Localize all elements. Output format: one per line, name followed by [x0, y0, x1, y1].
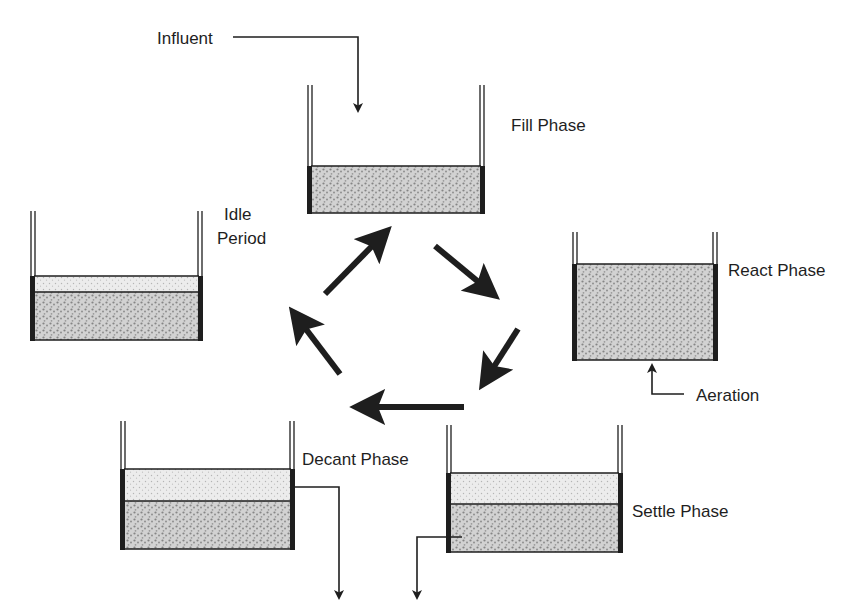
fill-phase-label: Fill Phase [511, 116, 586, 135]
tank-wall-left [446, 473, 451, 553]
clear-layer [450, 473, 619, 504]
settle-phase-label: Settle Phase [632, 502, 728, 521]
idle-label-line1: Idle [224, 205, 251, 224]
clear-layer [34, 276, 199, 292]
tank-decant [120, 421, 339, 597]
tank-fill [307, 85, 485, 214]
tank-wall-right [713, 264, 718, 361]
sludge-layer [34, 292, 199, 340]
tank-wall-left [120, 469, 125, 550]
sbr-cycle-diagram: Influent Fill Phase React Phase Aeration [0, 0, 868, 613]
tank-settle [417, 425, 623, 597]
aeration-arrow-icon [652, 366, 684, 394]
tank-wall-right [290, 469, 295, 550]
arrow-fill-to-react-icon [435, 246, 487, 289]
aeration-label: Aeration [696, 386, 759, 405]
sludge-layer [450, 504, 619, 552]
aeration-group: Aeration [652, 366, 759, 405]
influent-label: Influent [157, 29, 213, 48]
tank-wall-left [307, 166, 312, 214]
influent-group: Influent [157, 29, 358, 110]
influent-arrow-icon [233, 37, 358, 110]
sludge-layer [311, 166, 481, 213]
tank-idle [30, 211, 203, 341]
cycle-arrows [299, 238, 518, 407]
clear-layer [124, 469, 291, 501]
react-phase-label: React Phase [728, 261, 825, 280]
tank-wall-right [198, 276, 203, 341]
tank-wall-right [480, 166, 485, 214]
tank-react [572, 232, 718, 361]
tank-wall-left [30, 276, 35, 341]
idle-label-line2: Period [217, 229, 266, 248]
arrow-decant-to-idle-icon [299, 320, 340, 374]
decant-phase-label: Decant Phase [302, 450, 409, 469]
tank-wall-left [572, 264, 577, 361]
sludge-layer [124, 501, 291, 549]
effluent-arrow-icon [295, 487, 339, 597]
arrow-idle-to-fill-icon [325, 238, 380, 294]
arrow-react-to-settle-icon [488, 329, 518, 376]
tank-wall-right [618, 473, 623, 553]
sludge-layer [576, 264, 714, 360]
